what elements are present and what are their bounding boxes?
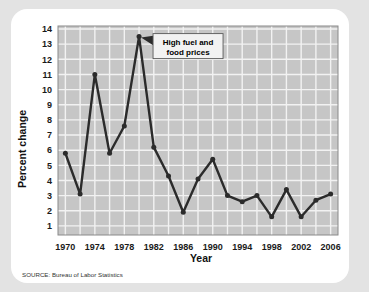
data-point-marker [122,123,127,128]
y-tick-label: 6 [47,145,52,155]
data-point-marker [254,193,259,198]
y-tick-label: 8 [47,115,52,125]
y-tick-label: 1 [47,221,52,231]
x-tick-label: 1970 [55,242,75,252]
data-point-marker [196,176,201,181]
y-tick-label: 10 [42,85,52,95]
y-axis-title: Percent change [16,110,28,188]
data-point-marker [107,151,112,156]
chart-figure: 1234567891011121314 19701974197819821986… [11,9,349,283]
x-tick-label: 1990 [203,242,223,252]
x-tick-label: 1974 [85,242,105,252]
annotation-line-1: High fuel and [163,38,214,47]
y-axis-tick-labels: 1234567891011121314 [42,24,52,231]
annotation-line-2: food prices [166,48,210,57]
y-tick-label: 11 [42,70,52,80]
x-tick-label: 2006 [321,242,341,252]
data-point-marker [78,192,83,197]
y-tick-label: 14 [42,24,52,34]
annotation-callout-group: High fuel andfood prices [141,34,223,59]
data-point-marker [151,145,156,150]
data-point-marker [92,72,97,77]
line-chart-svg: 1234567891011121314 19701974197819821986… [11,9,349,283]
data-point-marker [137,34,142,39]
x-tick-label: 1978 [114,242,134,252]
y-tick-label: 3 [47,191,52,201]
x-tick-label: 1994 [232,242,252,252]
x-tick-label: 2002 [291,242,311,252]
chart-card: 1234567891011121314 19701974197819821986… [11,9,349,283]
data-point-marker [299,214,304,219]
data-point-marker [63,151,68,156]
x-tick-label: 1986 [173,242,193,252]
data-point-marker [181,210,186,215]
y-tick-label: 13 [42,39,52,49]
x-tick-label: 1982 [144,242,164,252]
y-tick-label: 12 [42,55,52,65]
y-tick-label: 4 [47,176,52,186]
data-point-marker [225,193,230,198]
data-point-marker [166,173,171,178]
data-point-marker [210,157,215,162]
y-tick-label: 9 [47,100,52,110]
x-axis-tick-labels: 1970197419781982198619901994199820022006 [55,242,340,252]
y-tick-label: 5 [47,161,52,171]
data-point-marker [313,198,318,203]
data-point-marker [240,199,245,204]
source-note: SOURCE: Bureau of Labor Statistics [22,271,123,278]
data-point-marker [328,192,333,197]
data-point-marker [269,214,274,219]
data-point-marker [284,187,289,192]
y-tick-label: 2 [47,206,52,216]
y-tick-label: 7 [47,130,52,140]
x-axis-title: Year [190,252,212,264]
x-tick-label: 1998 [262,242,282,252]
